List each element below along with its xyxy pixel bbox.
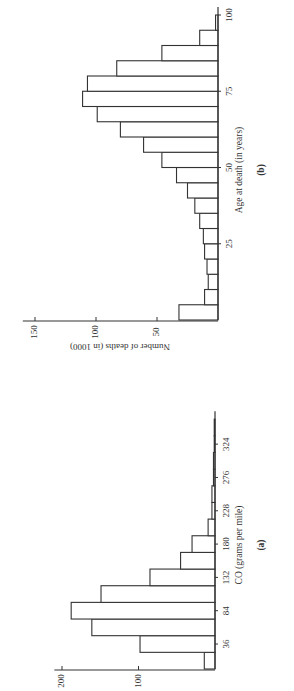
histogram-bar xyxy=(144,137,218,152)
y-axis-label: Number of deaths (in 1000) xyxy=(70,342,170,352)
y-tick-label: 150 xyxy=(29,325,39,339)
x-tick-label: 324 xyxy=(221,437,231,451)
histogram-bar xyxy=(204,652,215,669)
histogram-bar xyxy=(188,183,219,198)
x-tick-label: 36 xyxy=(221,639,231,649)
histogram-bar xyxy=(150,569,215,586)
histogram-bar xyxy=(177,168,218,183)
histogram-bar xyxy=(87,76,218,91)
histogram-bar xyxy=(200,213,218,228)
histogram-bar xyxy=(179,305,218,320)
histogram-bar xyxy=(192,536,215,553)
histogram-bar xyxy=(200,30,218,45)
x-tick-label: 132 xyxy=(221,571,231,585)
histogram-bar xyxy=(195,198,218,213)
histogram-bar xyxy=(205,290,218,305)
histogram-bar xyxy=(208,519,215,536)
histogram-bar xyxy=(162,46,218,61)
x-tick-label: 25 xyxy=(224,239,234,249)
histogram-bar xyxy=(207,259,218,274)
x-axis-label: CO (grams per mile) xyxy=(234,506,245,585)
y-tick-label: 100 xyxy=(90,325,100,339)
histogram-bar xyxy=(140,636,215,653)
figure: 25507510050100150Age at death (in years)… xyxy=(0,0,294,691)
histogram-figure: 25507510050100150Age at death (in years)… xyxy=(0,0,294,691)
x-axis-label: Age at death (in years) xyxy=(234,127,245,214)
y-tick-label: 50 xyxy=(151,327,161,337)
x-tick-label: 276 xyxy=(221,470,231,484)
x-tick-label: 50 xyxy=(224,163,234,173)
panel-label: (a) xyxy=(256,539,267,550)
x-tick-label: 228 xyxy=(221,504,231,518)
histogram-bar xyxy=(181,552,215,569)
x-tick-label: 180 xyxy=(221,537,231,551)
x-tick-label: 75 xyxy=(224,86,234,96)
histogram-bar xyxy=(208,274,218,289)
histogram-bar xyxy=(71,602,215,619)
y-tick-label: 200 xyxy=(56,674,66,688)
histogram-bar xyxy=(117,61,218,76)
histogram-bar xyxy=(92,619,215,636)
histogram-bar xyxy=(120,122,218,137)
histogram-bar xyxy=(83,91,218,106)
x-tick-label: 100 xyxy=(224,8,234,22)
histogram-bar xyxy=(205,244,218,259)
chart-b-age-at-death: 25507510050100150Age at death (in years)… xyxy=(23,7,267,352)
histogram-bar xyxy=(203,229,218,244)
histogram-bar xyxy=(97,107,218,122)
chart-a-co-emissions: 3684132180228276324100200CO (grams per m… xyxy=(54,411,267,688)
panel-label: (b) xyxy=(256,164,267,176)
histogram-bar xyxy=(162,152,218,167)
y-tick-label: 100 xyxy=(133,674,143,688)
histogram-bar xyxy=(101,586,215,603)
x-tick-label: 84 xyxy=(221,606,231,616)
